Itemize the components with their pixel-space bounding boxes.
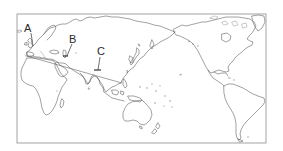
label-a: A xyxy=(24,22,32,34)
label-c: C xyxy=(97,45,105,57)
world-map: A B C xyxy=(0,0,283,151)
map-frame xyxy=(17,14,266,143)
label-b: B xyxy=(69,33,76,45)
world-map-svg: A B C xyxy=(0,0,283,151)
